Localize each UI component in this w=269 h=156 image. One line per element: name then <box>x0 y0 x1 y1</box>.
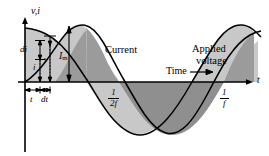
i-label: i <box>33 63 36 72</box>
dt-measure-arrow-left <box>40 88 45 91</box>
v-label: v <box>44 55 48 64</box>
current-curve-label: Current <box>105 45 137 56</box>
di-label: di <box>20 45 27 54</box>
time-label: Time <box>166 66 187 76</box>
applied-voltage-label-line1: Applied <box>192 44 226 55</box>
dt-label: dt <box>41 95 48 104</box>
applied-voltage-label-line2: voltage <box>196 56 227 67</box>
half-period-denominator: 2f <box>108 99 119 108</box>
x-axis-label: t <box>257 76 260 86</box>
full-period-denominator: f <box>220 99 229 108</box>
ac-waveform-figure: v,i t di v i Im t dt Current Applied vol… <box>0 0 269 156</box>
Im-subscript: m <box>62 54 67 61</box>
Im-label: Im <box>59 51 68 62</box>
y-axis-label: v,i <box>31 6 40 16</box>
y-axis-arrowhead <box>22 17 28 24</box>
full-period-numerator: 1 <box>220 88 229 97</box>
half-period-numerator: 1 <box>108 88 119 97</box>
Im-arrowhead-top <box>67 26 71 33</box>
half-period-tick-label: 1 2f <box>108 88 119 109</box>
t-label: t <box>30 95 33 104</box>
full-period-tick-label: 1 f <box>220 88 229 109</box>
waveform-plot <box>0 0 269 156</box>
